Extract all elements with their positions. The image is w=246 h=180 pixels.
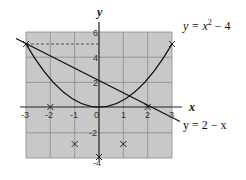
x-tick: -1 — [70, 110, 78, 120]
x-axis-label: x — [188, 100, 195, 114]
y-tick: 2 — [93, 78, 98, 88]
x-tick: -3 — [21, 110, 29, 120]
y-tick: 6 — [93, 28, 98, 38]
x-tick: -2 — [45, 110, 53, 120]
x-tick: 1 — [121, 110, 126, 120]
parabola-equation-label: y = x2 − 4 — [182, 18, 231, 33]
x-tick: 0 — [94, 110, 99, 120]
y-tick: -4 — [93, 158, 101, 168]
line-equation-label: y = 2 − x — [183, 118, 227, 132]
y-axis-label: y — [95, 5, 103, 19]
y-tick: -2 — [89, 128, 97, 138]
x-tick: 3 — [169, 110, 174, 120]
x-tick: 2 — [145, 110, 150, 120]
y-tick: 4 — [93, 53, 98, 63]
chart-canvas: -3 -2 -1 0 1 2 3 6 4 2 -2 -4 y x y = x2 … — [0, 0, 246, 180]
